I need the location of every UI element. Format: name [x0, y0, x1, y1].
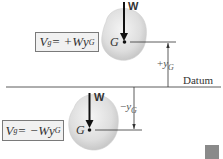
top-center-of-gravity-dot: [123, 40, 127, 44]
top-weight-label: W: [128, 0, 138, 12]
formula-y-subscript: G: [55, 126, 61, 135]
formula-equals: = +W: [51, 34, 83, 50]
formula-lhs: V: [39, 34, 47, 50]
top-dimension-subscript: G: [168, 63, 174, 72]
bottom-dimension-subscript: G: [131, 106, 137, 115]
top-dimension-arrowhead-icon: [166, 43, 169, 48]
bottom-potential-energy-formula: Vg = −WyG: [2, 120, 64, 141]
bottom-center-of-gravity-dot: [88, 128, 92, 132]
bottom-weight-label: W: [94, 91, 104, 103]
bottom-center-label: G: [76, 123, 85, 138]
top-center-label: G: [110, 35, 119, 50]
formula-lhs: V: [5, 123, 13, 139]
bottom-dimension-label: −yG: [120, 100, 137, 115]
datum-label: Datum: [183, 74, 213, 86]
top-potential-energy-formula: Vg = +WyG: [35, 32, 99, 52]
corner-marker-square: [205, 145, 219, 159]
formula-equals: = −W: [17, 123, 49, 139]
formula-y-subscript: G: [89, 38, 95, 47]
bottom-dimension-arrowhead-icon: [132, 124, 135, 129]
top-dimension-label: +yG: [157, 57, 174, 72]
